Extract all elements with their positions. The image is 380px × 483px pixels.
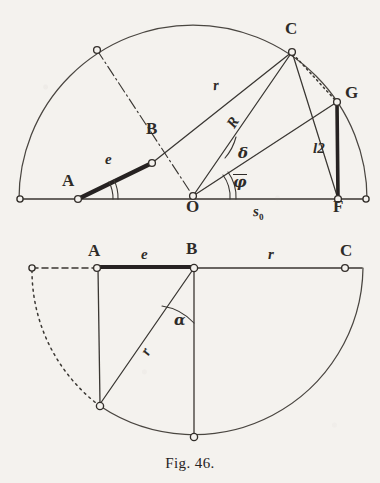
upper-label-s0: s0 (252, 204, 264, 223)
upper-node-baseline-left (17, 196, 23, 202)
upper-label-e: e (105, 152, 112, 167)
upper-node-A (75, 196, 82, 203)
upper-node-arc-upper-left (94, 47, 101, 54)
upper-label-F: F (333, 198, 343, 215)
upper-node-C (289, 49, 296, 56)
upper-label-delta: δ (238, 146, 248, 161)
lower-label-C: C (340, 242, 352, 259)
lower-node-arc-left (96, 402, 103, 409)
upper-label-l2: l2 (313, 141, 325, 156)
lower-node-A (94, 265, 101, 272)
lower-dotted-arc (32, 268, 100, 406)
upper-label-A: A (62, 172, 74, 189)
upper-segment-BC (152, 52, 292, 163)
figure-root: A B C O F G e r R l2 δ φ s0 A B C e r r … (0, 0, 380, 483)
upper-label-G: G (345, 84, 358, 101)
figure-caption: Fig. 46. (0, 455, 380, 472)
lower-label-r-top: r (268, 247, 274, 262)
upper-label-B: B (146, 120, 157, 137)
lower-segment-r (100, 268, 194, 404)
lower-diagram (29, 264, 363, 440)
lower-node-C (342, 265, 349, 272)
lower-label-e: e (141, 247, 148, 262)
upper-node-B (149, 160, 156, 167)
upper-node-G (334, 99, 341, 106)
lower-label-B: B (186, 240, 197, 257)
lower-node-B (190, 264, 197, 271)
upper-node-baseline-right (363, 196, 369, 202)
lower-node-left-end (29, 265, 35, 271)
upper-label-r: r (212, 78, 219, 94)
lower-label-A: A (88, 242, 100, 259)
upper-dash-dot-line (97, 50, 193, 196)
upper-angle-arc-phibar-inner (223, 175, 230, 199)
lower-label-alpha: α (174, 313, 186, 328)
upper-label-O: O (186, 198, 199, 215)
lower-vertical-A (98, 268, 100, 404)
upper-segment-CF (292, 52, 338, 199)
upper-label-s0-sub: 0 (259, 212, 264, 222)
upper-label-C: C (285, 20, 297, 37)
upper-label-phi-bar: φ (233, 174, 247, 191)
upper-link-GF (337, 103, 338, 198)
lower-node-arc-bottom (190, 433, 197, 440)
